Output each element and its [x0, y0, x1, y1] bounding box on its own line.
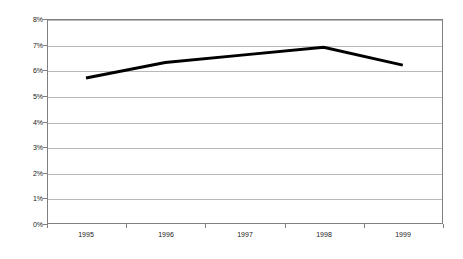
x-tick-mark-end [443, 224, 444, 228]
y-tick-mark-3 [43, 147, 47, 148]
y-tick-label-0: 0% [5, 221, 43, 228]
gridline-8pct [48, 20, 442, 21]
y-tick-label-4: 4% [5, 118, 43, 125]
chart-container: 8% 7% 6% 5% 4% 3% 2% 1% 0% 1995 1996 199… [0, 0, 463, 259]
y-axis-labels: 8% 7% 6% 5% 4% 3% 2% 1% 0% [0, 19, 43, 224]
y-tick-label-5: 5% [5, 92, 43, 99]
gridline-2pct [48, 174, 442, 175]
gridline-4pct [48, 123, 442, 124]
y-tick-mark-4 [43, 122, 47, 123]
y-tick-label-6: 6% [5, 67, 43, 74]
y-tick-mark-2 [43, 173, 47, 174]
y-tick-mark-8 [43, 19, 47, 20]
x-tick-label-1996: 1996 [136, 231, 196, 238]
y-tick-mark-1 [43, 198, 47, 199]
x-tick-mark-1996 [126, 224, 127, 228]
y-tick-label-3: 3% [5, 144, 43, 151]
x-tick-label-1998: 1998 [294, 231, 354, 238]
x-tick-mark-1999 [364, 224, 365, 228]
x-tick-mark-1995 [47, 224, 48, 228]
x-tick-mark-1997 [205, 224, 206, 228]
y-tick-label-8: 8% [5, 16, 43, 23]
gridline-7pct [48, 46, 442, 47]
y-tick-mark-5 [43, 96, 47, 97]
y-tick-mark-6 [43, 70, 47, 71]
gridline-3pct [48, 148, 442, 149]
gridline-6pct [48, 71, 442, 72]
x-tick-mark-1998 [285, 224, 286, 228]
y-tick-label-2: 2% [5, 169, 43, 176]
x-tick-label-1999: 1999 [373, 231, 433, 238]
y-tick-label-7: 7% [5, 41, 43, 48]
gridline-5pct [48, 97, 442, 98]
x-tick-label-1995: 1995 [56, 231, 116, 238]
plot-area [47, 19, 443, 224]
y-tick-mark-7 [43, 45, 47, 46]
y-tick-label-1: 1% [5, 195, 43, 202]
gridline-1pct [48, 199, 442, 200]
x-tick-label-1997: 1997 [215, 231, 275, 238]
